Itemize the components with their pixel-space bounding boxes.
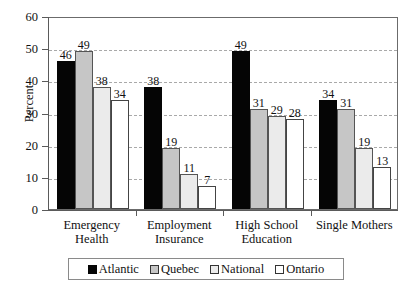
y-axis-tick-label: 50 bbox=[4, 43, 38, 56]
legend-swatch-icon bbox=[88, 265, 97, 274]
bar-value-label: 28 bbox=[281, 107, 309, 119]
bar bbox=[57, 61, 75, 209]
bar-value-label: 34 bbox=[106, 88, 134, 100]
legend-swatch-icon bbox=[150, 265, 159, 274]
y-axis-tick-label: 60 bbox=[4, 11, 38, 24]
plot-frame: 4649383438191174931292834311913 bbox=[48, 17, 398, 210]
legend-swatch-icon bbox=[275, 265, 284, 274]
bar-value-label: 31 bbox=[332, 97, 360, 109]
bar-value-label: 49 bbox=[70, 39, 98, 51]
chart-legend: AtlanticQuebecNationalOntario bbox=[68, 258, 344, 280]
y-axis-tick bbox=[42, 81, 49, 82]
bar-value-label: 19 bbox=[350, 136, 378, 148]
bar bbox=[337, 109, 355, 209]
bar-value-label: 38 bbox=[88, 75, 116, 87]
bar bbox=[111, 100, 129, 209]
bar bbox=[250, 109, 268, 209]
legend-item[interactable]: Atlantic bbox=[88, 262, 139, 277]
legend-item-label: Ontario bbox=[286, 262, 324, 277]
bar bbox=[198, 186, 216, 209]
bar-value-label: 13 bbox=[368, 155, 396, 167]
y-axis-tick bbox=[42, 17, 49, 18]
y-axis-tick bbox=[42, 49, 49, 50]
bar-value-label: 49 bbox=[227, 39, 255, 51]
y-axis-tick bbox=[42, 178, 49, 179]
y-axis-tick bbox=[42, 114, 49, 115]
legend-item[interactable]: National bbox=[210, 262, 264, 277]
bar bbox=[232, 51, 250, 209]
legend-item[interactable]: Quebec bbox=[150, 262, 199, 277]
legend-swatch-icon bbox=[210, 265, 219, 274]
bar bbox=[286, 119, 304, 209]
y-axis-tick-label: 10 bbox=[4, 172, 38, 185]
bar bbox=[373, 167, 391, 209]
legend-item[interactable]: Ontario bbox=[275, 262, 324, 277]
bar bbox=[268, 116, 286, 209]
x-axis-tick bbox=[223, 210, 224, 216]
y-axis-tick bbox=[42, 146, 49, 147]
plot-area: 4649383438191174931292834311913 bbox=[49, 18, 397, 209]
x-axis-tick bbox=[136, 210, 137, 216]
y-axis-tick-label: 0 bbox=[4, 204, 38, 217]
y-axis-title: Percent bbox=[22, 59, 37, 149]
bar-chart: 4649383438191174931292834311913 01020304… bbox=[0, 0, 412, 291]
x-axis-tick bbox=[311, 210, 312, 216]
bar bbox=[319, 100, 337, 209]
bar-value-label: 38 bbox=[139, 75, 167, 87]
bar-value-label: 11 bbox=[175, 162, 203, 174]
legend-item-label: National bbox=[221, 262, 264, 277]
bar bbox=[144, 87, 162, 209]
legend-item-label: Atlantic bbox=[99, 262, 139, 277]
bar bbox=[162, 148, 180, 209]
x-axis-label-line: Single Mothers bbox=[299, 218, 409, 232]
legend-item-label: Quebec bbox=[161, 262, 199, 277]
bar bbox=[93, 87, 111, 209]
gridline bbox=[49, 50, 397, 51]
x-axis-group-label: Single Mothers bbox=[299, 218, 409, 232]
bar-value-label: 19 bbox=[157, 136, 185, 148]
bar-value-label: 7 bbox=[193, 174, 221, 186]
x-axis-label-line: Education bbox=[212, 232, 322, 246]
